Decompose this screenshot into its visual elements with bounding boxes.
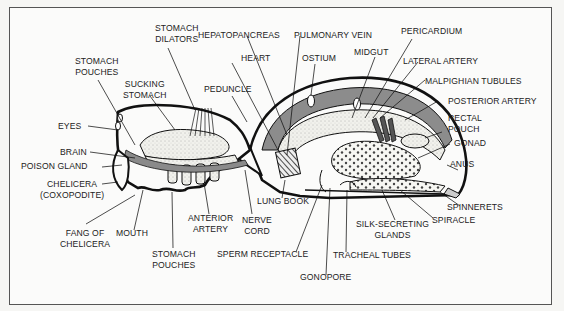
- label-line: SILK-SECRETING: [356, 219, 429, 230]
- label-line: STOMACH: [123, 90, 167, 101]
- label-line: FANG OF: [60, 228, 110, 239]
- label-line: POUCHES: [152, 260, 196, 271]
- label-brain: BRAIN: [60, 147, 87, 158]
- label-sucking-stomach: SUCKING STOMACH: [123, 79, 167, 101]
- label-line: (COXOPODITE): [40, 190, 104, 201]
- label-line: RECTAL: [448, 113, 482, 124]
- label-ostium: OSTIUM: [302, 53, 336, 64]
- label-hepatopancreas: HEPATOPANCREAS: [198, 30, 280, 41]
- label-line: POUCHES: [75, 67, 119, 78]
- label-sperm-receptacle: SPERM RECEPTACLE: [217, 249, 308, 260]
- label-peduncle: PEDUNCLE: [204, 84, 252, 95]
- label-lung-book: LUNG BOOK: [257, 196, 309, 207]
- label-chelicera: CHELICERA (COXOPODITE): [40, 179, 104, 201]
- label-line: NERVE: [242, 215, 272, 226]
- cephalothorax: [113, 105, 250, 191]
- label-rectal-pouch: RECTAL POUCH: [448, 113, 482, 135]
- label-line: DILATORS: [155, 34, 199, 45]
- abdomen: [250, 78, 466, 198]
- label-line: STOMACH: [75, 56, 119, 67]
- label-pericardium: PERICARDIUM: [401, 26, 462, 37]
- label-line: GLANDS: [356, 230, 429, 241]
- label-stomach-pouches-bottom: STOMACH POUCHES: [152, 249, 196, 271]
- label-stomach-dilators: STOMACH DILATORS: [155, 23, 199, 45]
- label-gonad: GONAD: [454, 138, 486, 149]
- label-heart: HEART: [241, 53, 270, 64]
- label-posterior-artery: POSTERIOR ARTERY: [448, 96, 537, 107]
- label-lateral-artery: LATERAL ARTERY: [403, 56, 478, 67]
- label-line: POUCH: [448, 124, 482, 135]
- label-stomach-pouches-top: STOMACH POUCHES: [75, 56, 119, 78]
- label-line: STOMACH: [155, 23, 199, 34]
- label-line: CHELICERA: [60, 239, 110, 250]
- label-anterior-artery: ANTERIOR ARTERY: [188, 213, 233, 235]
- label-spinnerets: SPINNERETS: [447, 202, 503, 213]
- label-nerve-cord: NERVE CORD: [242, 215, 272, 237]
- label-spiracle: SPIRACLE: [432, 215, 475, 226]
- label-line: CHELICERA: [40, 179, 104, 190]
- label-mouth: MOUTH: [116, 228, 148, 239]
- label-tracheal-tubes: TRACHEAL TUBES: [333, 250, 411, 261]
- label-anus: ANUS: [450, 159, 474, 170]
- label-fang-of-chelicera: FANG OF CHELICERA: [60, 228, 110, 250]
- label-line: CORD: [242, 226, 272, 237]
- label-pulmonary-vein: PULMONARY VEIN: [294, 30, 372, 41]
- label-line: ANTERIOR: [188, 213, 233, 224]
- label-line: STOMACH: [152, 249, 196, 260]
- label-gonopore: GONOPORE: [300, 272, 351, 283]
- label-malpighian-tubules: MALPIGHIAN TUBULES: [425, 76, 522, 87]
- label-line: ARTERY: [188, 224, 233, 235]
- label-poison-gland: POISON GLAND: [21, 161, 88, 172]
- label-midgut: MIDGUT: [354, 47, 389, 58]
- label-silk-secreting-glands: SILK-SECRETING GLANDS: [356, 219, 429, 241]
- label-line: SUCKING: [123, 79, 167, 90]
- label-eyes: EYES: [58, 121, 81, 132]
